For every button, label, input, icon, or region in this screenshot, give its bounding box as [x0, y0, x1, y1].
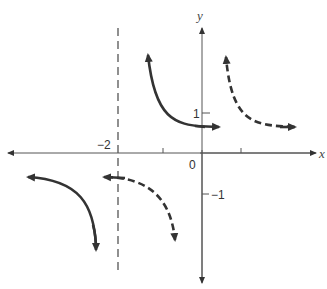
curve-dashed-center-lower	[106, 177, 175, 240]
curve-solid-left-lower	[28, 177, 96, 246]
curve-dashed-right-upper	[226, 57, 294, 127]
y-tick-label-neg1: −1	[211, 188, 225, 202]
curve-solid-left-lower-tail	[93, 225, 96, 250]
curve-dashed-center-lower-head	[104, 177, 125, 178]
y-tick-label-1: 1	[193, 107, 200, 121]
x-tick-label-neg2: −2	[97, 138, 111, 152]
function-graph: y x −2 0 1 −1	[0, 0, 327, 289]
y-axis-label: y	[195, 8, 203, 23]
x-axis-label: x	[318, 146, 325, 161]
curve-solid-center-upper-tail	[195, 126, 219, 127]
origin-label: 0	[189, 158, 196, 172]
